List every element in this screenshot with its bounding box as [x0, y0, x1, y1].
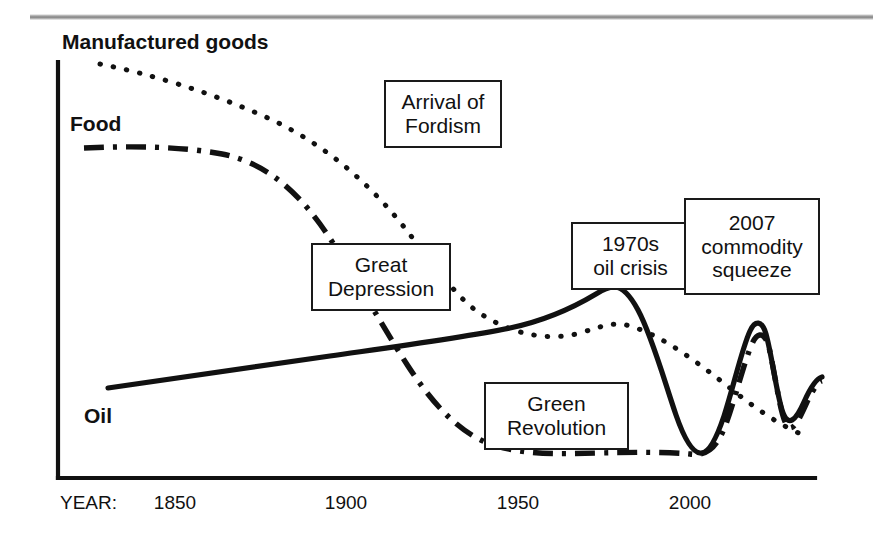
x-tick-label-1950: 1950: [483, 492, 553, 514]
annotation-1970s-oil-crisis: 1970s oil crisis: [571, 222, 690, 290]
annotation-line: Fordism: [405, 114, 481, 138]
annotation-great-depression: Great Depression: [311, 243, 451, 311]
series-label-food: Food: [70, 112, 121, 136]
annotation-line: Arrival of: [402, 90, 485, 114]
annotation-line: commodity: [701, 235, 803, 259]
series-label-oil: Oil: [84, 404, 112, 428]
annotation-line: oil crisis: [593, 256, 668, 280]
x-axis-caption: YEAR:: [60, 492, 117, 514]
annotation-line: 2007: [729, 211, 776, 235]
x-tick-label-1900: 1900: [311, 492, 381, 514]
figure-root: Manufactured goods Food Oil Arrival of F…: [0, 0, 873, 555]
annotation-line: Depression: [328, 277, 434, 301]
annotation-2007-commodity-squeeze: 2007 commodity squeeze: [684, 198, 820, 295]
annotation-line: Revolution: [507, 416, 606, 440]
annotation-arrival-of-fordism: Arrival of Fordism: [384, 80, 502, 148]
series-line-food: [84, 147, 822, 454]
x-tick-label-1850: 1850: [140, 492, 210, 514]
annotation-line: Green: [527, 392, 585, 416]
annotation-line: Great: [355, 253, 408, 277]
annotation-line: squeeze: [712, 258, 791, 282]
x-tick-label-2000: 2000: [655, 492, 725, 514]
annotation-green-revolution: Green Revolution: [484, 382, 629, 450]
series-label-manufactured-goods: Manufactured goods: [62, 30, 269, 54]
annotation-line: 1970s: [602, 232, 659, 256]
